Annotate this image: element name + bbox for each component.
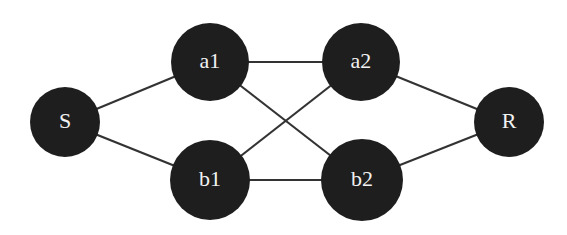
node-R: R bbox=[474, 87, 544, 157]
node-label: S bbox=[59, 108, 71, 133]
node-b1: b1 bbox=[170, 140, 250, 220]
node-a1: a1 bbox=[171, 23, 249, 101]
node-label: b2 bbox=[351, 166, 373, 191]
node-label: R bbox=[502, 108, 517, 133]
node-b2: b2 bbox=[321, 139, 403, 221]
network-diagram: Sa1b1a2b2R bbox=[0, 0, 567, 235]
node-S: S bbox=[30, 87, 100, 157]
node-a2: a2 bbox=[322, 23, 400, 101]
node-label: a2 bbox=[351, 48, 372, 73]
edges-layer bbox=[65, 62, 509, 180]
node-label: a1 bbox=[200, 48, 221, 73]
node-label: b1 bbox=[199, 166, 221, 191]
